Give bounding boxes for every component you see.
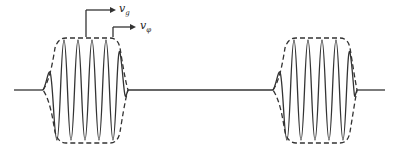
phase-velocity-label: vφ (140, 19, 151, 34)
phase-arrowhead-icon (130, 24, 136, 30)
envelope-left (43, 38, 128, 143)
wave-diagram (0, 0, 396, 149)
group-arrowhead-icon (110, 7, 116, 13)
carrier-wave-right (273, 40, 357, 140)
group-velocity-label: vg (119, 2, 130, 17)
carrier-wave-left (43, 40, 128, 140)
